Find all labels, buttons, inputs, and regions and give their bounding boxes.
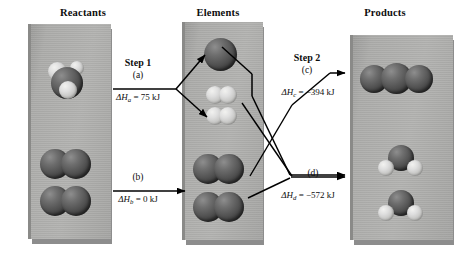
figure-canvas: Reactants Elements Products [0,0,468,263]
label-enthalpy-b: ΔHb = 0 kJ [100,194,176,205]
label-step1: Step 1 [106,57,170,68]
delta-h-value: 0 kJ [143,194,158,204]
label-step-b: (b) [106,172,170,182]
label-enthalpy-a: ΔHa = 75 kJ [100,92,176,103]
delta-h-equals: = [136,194,141,204]
label-step-d: (d) [278,168,348,178]
delta-h-subscript: b [130,198,133,205]
delta-h-subscript: d [293,194,296,201]
label-step-c: (c) [272,65,342,75]
delta-h-symbol: ΔH [281,87,293,97]
delta-h-equals: = [298,87,303,97]
delta-h-equals: = [299,190,304,200]
label-step2: Step 2 [272,52,342,63]
label-enthalpy-c: ΔHc = −394 kJ [262,87,354,98]
delta-h-symbol: ΔH [116,92,128,102]
label-enthalpy-d: ΔHd = −572 kJ [262,190,354,201]
delta-h-symbol: ΔH [281,190,293,200]
delta-h-subscript: c [293,91,296,98]
delta-h-subscript: a [128,96,131,103]
delta-h-value: −572 kJ [306,190,335,200]
arrow-layer [0,0,468,263]
delta-h-value: 75 kJ [141,92,160,102]
label-step-a: (a) [106,70,170,80]
delta-h-equals: = [133,92,138,102]
delta-h-symbol: ΔH [118,194,130,204]
delta-h-value: −394 kJ [306,87,335,97]
